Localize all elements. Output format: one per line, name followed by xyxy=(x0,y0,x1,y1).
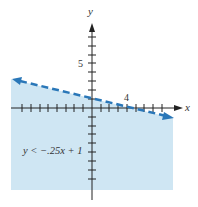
y-axis-arrow-icon xyxy=(89,23,95,32)
x-axis-arrow-icon xyxy=(174,105,183,111)
graph xyxy=(0,0,198,207)
y-tick-label: 5 xyxy=(78,58,83,69)
inequality-label: y < −.25x + 1 xyxy=(23,145,82,156)
y-axis-label: y xyxy=(88,5,93,17)
x-tick-label: 4 xyxy=(124,92,129,103)
x-axis-label: x xyxy=(185,101,190,113)
